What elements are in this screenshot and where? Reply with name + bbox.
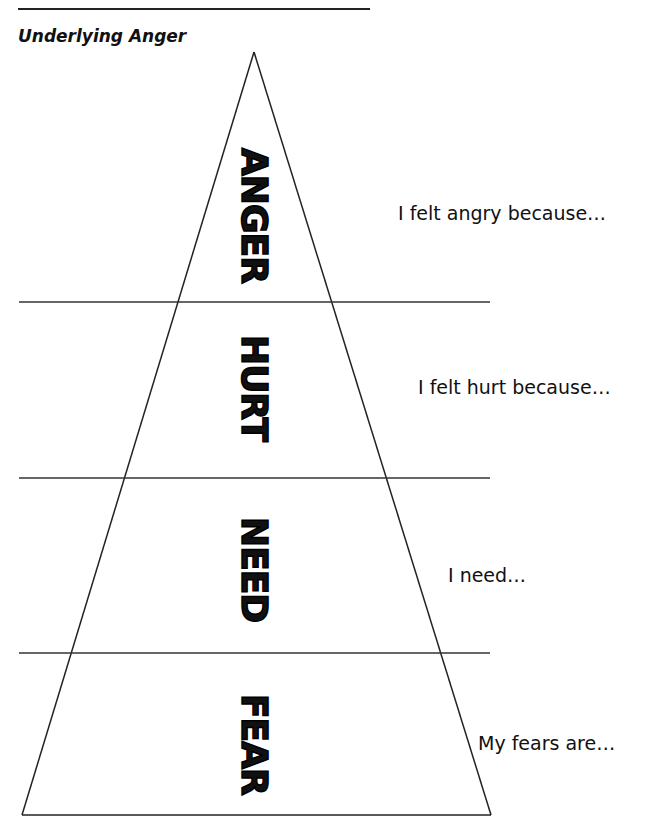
pyramid-left-edge	[22, 52, 254, 815]
layer-label-hurt: HURT	[236, 335, 272, 425]
layer-label-need: NEED	[236, 517, 272, 607]
prompt-fears: My fears are…	[478, 732, 615, 754]
prompt-angry: I felt angry because…	[398, 202, 606, 224]
layer-label-fear: FEAR	[236, 694, 272, 784]
prompt-need: I need…	[448, 564, 526, 586]
layer-label-anger: ANGER	[236, 148, 272, 268]
prompt-hurt: I felt hurt because…	[418, 376, 611, 398]
anger-pyramid-diagram	[0, 0, 661, 835]
pyramid-right-edge	[254, 52, 491, 815]
